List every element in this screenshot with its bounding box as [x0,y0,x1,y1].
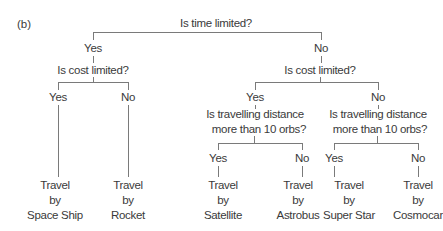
leaf-line: Travel [393,178,443,193]
connector [58,82,59,90]
figure-label: (b) [17,17,31,31]
question-cost-limited-left: Is cost limited? [57,63,128,78]
leaf-line: by [111,193,145,208]
branch-line [58,82,129,83]
leaf-astrobus: Travel by Astrobus [277,178,320,223]
leaf-satellite: Travel by Satellite [204,178,242,223]
answer-no: No [314,41,328,56]
leaf-line: Space Ship [27,208,83,223]
branch-line [255,82,379,83]
question-distance-right-line2: more than 10 orbs? [333,122,427,137]
leaf-line: Travel [323,178,375,193]
answer-no: No [121,90,135,105]
leaf-line: Travel [277,178,320,193]
branch-line [218,143,303,144]
root-branch-line [93,32,322,33]
connector [302,143,303,150]
leaf-line: by [27,193,83,208]
answer-no: No [371,90,385,105]
answer-yes: Yes [325,151,343,166]
connector [128,105,129,177]
answer-no: No [295,151,309,166]
leaf-line: by [204,193,242,208]
root-question: Is time limited? [180,16,252,31]
question-distance-left-line2: more than 10 orbs? [212,122,306,137]
answer-yes: Yes [84,41,102,56]
branch-line [334,143,419,144]
answer-yes: Yes [49,90,67,105]
connector [334,166,335,177]
answer-yes: Yes [246,90,264,105]
leaf-line: Travel [204,178,242,193]
leaf-line: by [323,193,375,208]
leaf-space-ship: Travel by Space Ship [27,178,83,223]
connector [302,166,303,177]
leaf-cosmocar: Travel by Cosmocar [393,178,443,223]
leaf-line: Travel [111,178,145,193]
decision-tree: (b) Is time limited? Yes No Is cost limi… [0,0,443,231]
leaf-line: by [393,193,443,208]
connector [58,105,59,177]
leaf-line: Astrobus [277,208,320,223]
connector [128,82,129,90]
leaf-line: Super Star [323,208,375,223]
leaf-line: Rocket [111,208,145,223]
connector [254,136,255,143]
connector [334,143,335,150]
connector [321,56,322,63]
leaf-line: Travel [27,178,83,193]
question-cost-limited-right: Is cost limited? [284,63,355,78]
connector [93,32,94,40]
connector [378,82,379,90]
connector [377,136,378,143]
connector [255,82,256,90]
answer-yes: Yes [209,151,227,166]
connector [418,143,419,150]
leaf-super-star: Travel by Super Star [323,178,375,223]
leaf-rocket: Travel by Rocket [111,178,145,223]
connector [321,32,322,40]
leaf-line: Satellite [204,208,242,223]
question-distance-right-line1: Is travelling distance [329,107,427,122]
leaf-line: by [277,193,320,208]
connector [218,143,219,150]
connector [418,166,419,177]
question-distance-left-line1: Is travelling distance [206,107,304,122]
connector [218,166,219,177]
leaf-line: Cosmocar [393,208,443,223]
answer-no: No [411,151,425,166]
connector [93,56,94,63]
